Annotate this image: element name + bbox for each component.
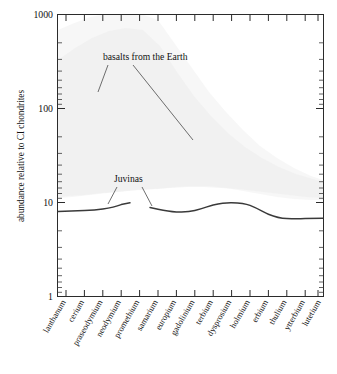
- y-tick-label-10: 10: [43, 197, 53, 208]
- y-tick-label-1000: 1000: [33, 9, 53, 20]
- annotation-juvinas-label: Juvinas: [114, 173, 143, 184]
- y-tick-label-1: 1: [48, 291, 53, 302]
- annotation-basalts-label: basalts from the Earth: [103, 51, 188, 62]
- y-tick-label-100: 100: [38, 103, 53, 114]
- ree-abundance-chart: 1000 100 10 1 abundance relative to CI c…: [0, 0, 337, 374]
- y-axis-label: abundance relative to CI chondrites: [16, 90, 26, 223]
